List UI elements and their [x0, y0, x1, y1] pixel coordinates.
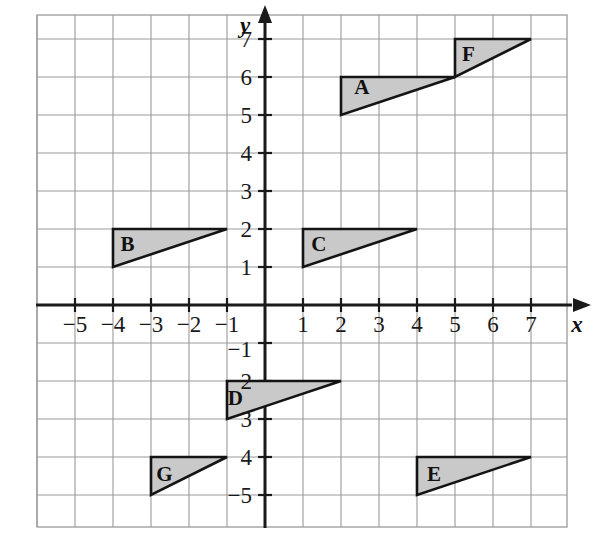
- x-tick-label: 6: [487, 312, 499, 337]
- y-tick-label: 3: [241, 179, 253, 204]
- shape-label-g: G: [156, 462, 172, 486]
- x-tick-label: 5: [449, 312, 461, 337]
- y-tick-label: 2: [241, 217, 253, 242]
- x-tick-label: 4: [411, 312, 423, 337]
- y-tick-label: 4: [241, 141, 253, 166]
- x-tick-label: 2: [335, 312, 347, 337]
- shape-label-d: D: [228, 386, 243, 410]
- shape-label-a: A: [354, 75, 370, 99]
- y-tick-label: 1: [241, 255, 253, 280]
- x-tick-label: −2: [177, 312, 201, 337]
- y-tick-label: 4: [241, 445, 253, 470]
- grid-lines: [37, 15, 567, 527]
- x-tick-label: 1: [297, 312, 309, 337]
- shape-label-e: E: [427, 462, 441, 486]
- x-tick-label: −1: [215, 312, 239, 337]
- shape-label-c: C: [311, 232, 326, 256]
- x-axis-name: x: [570, 312, 583, 337]
- y-axis-name: y: [237, 13, 251, 38]
- x-tick-label: −4: [101, 312, 126, 337]
- y-tick-label: −5: [228, 483, 252, 508]
- shape-label-f: F: [462, 42, 475, 66]
- coordinate-grid-figure: −5−4−3−2−112345677654321−1234−5 ABCDEFG …: [0, 0, 595, 545]
- y-tick-label: 3: [241, 407, 253, 432]
- y-tick-label: −1: [228, 337, 252, 362]
- x-tick-label: 7: [525, 312, 537, 337]
- x-tick-label: −5: [63, 312, 87, 337]
- y-tick-label: 6: [241, 65, 253, 90]
- y-tick-label: 5: [241, 103, 253, 128]
- plot-svg: −5−4−3−2−112345677654321−1234−5 ABCDEFG …: [0, 0, 595, 545]
- shape-label-b: B: [120, 232, 134, 256]
- x-tick-label: 3: [373, 312, 385, 337]
- x-tick-label: −3: [139, 312, 163, 337]
